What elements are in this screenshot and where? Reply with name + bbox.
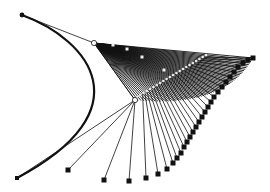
bezier-diagram (0, 0, 270, 192)
bezier-curve (17, 15, 94, 178)
control-polygon (17, 15, 135, 178)
